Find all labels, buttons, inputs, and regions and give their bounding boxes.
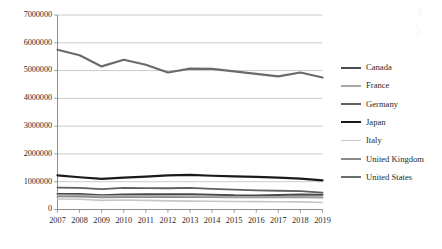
x-axis-label-2016: 2016 (244, 217, 268, 225)
x-axis-label-2007: 2007 (46, 217, 70, 225)
series-line-italy (58, 199, 323, 203)
legend-swatch-france (341, 85, 361, 87)
series-line-united-states (58, 50, 323, 78)
y-axis-label-0: 0 (48, 205, 52, 213)
line-chart: 0100000020000003000000400000050000006000… (0, 0, 442, 249)
legend-label-italy: Italy (366, 136, 382, 145)
x-axis-label-2012: 2012 (156, 217, 180, 225)
x-axis-label-2010: 2010 (112, 217, 136, 225)
y-axis-label-3000000: 3000000 (24, 122, 52, 130)
legend-swatch-united-states (341, 176, 361, 178)
legend-label-canada: Canada (366, 63, 392, 72)
x-axis-label-2018: 2018 (288, 217, 312, 225)
y-axis-label-7000000: 7000000 (24, 11, 52, 19)
x-axis-label-2015: 2015 (222, 217, 246, 225)
gridlines (58, 15, 323, 210)
x-axis-label-2019: 2019 (311, 217, 335, 225)
legend-label-france: France (366, 81, 389, 90)
y-axis-label-5000000: 5000000 (24, 66, 52, 74)
legend-swatch-italy (341, 140, 361, 142)
legend-label-united-states: United States (366, 173, 412, 182)
legend-label-germany: Germany (366, 100, 398, 109)
series-line-japan (58, 175, 323, 181)
legend-swatch-canada (341, 67, 361, 69)
legend-swatch-germany (341, 103, 361, 105)
x-axis-label-2017: 2017 (266, 217, 290, 225)
legend-swatch-united-kingdom (341, 158, 361, 160)
legend-swatch-japan (341, 121, 361, 123)
legend-label-united-kingdom: United Kingdom (366, 155, 424, 164)
x-axis-label-2009: 2009 (90, 217, 114, 225)
y-axis-label-2000000: 2000000 (24, 150, 52, 158)
series-line-germany (58, 188, 323, 193)
x-axis-label-2011: 2011 (134, 217, 158, 225)
y-axis-label-1000000: 1000000 (24, 178, 52, 186)
x-axis-ticks (58, 210, 323, 213)
x-axis-label-2008: 2008 (68, 217, 92, 225)
y-axis-label-4000000: 4000000 (24, 94, 52, 102)
x-axis-label-2013: 2013 (178, 217, 202, 225)
legend-label-japan: Japan (366, 118, 386, 127)
y-axis-label-6000000: 6000000 (24, 39, 52, 47)
y-axis-ticks (54, 15, 57, 210)
x-axis-label-2014: 2014 (200, 217, 224, 225)
